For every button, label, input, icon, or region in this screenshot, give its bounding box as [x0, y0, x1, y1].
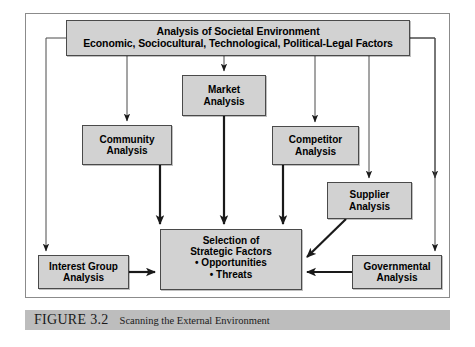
node-selection-bullet-threats: • Threats — [161, 269, 301, 280]
node-supplier-analysis[interactable]: Supplier Analysis — [327, 182, 412, 219]
node-selection-line2: Strategic Factors — [190, 246, 272, 257]
figure-title: Scanning the External Environment — [120, 315, 270, 326]
node-selection-of-strategic-factors[interactable]: Selection of Strategic Factors • Opportu… — [160, 229, 302, 290]
node-selection-line1: Selection of — [203, 235, 260, 246]
node-competitor-line1: Competitor — [289, 134, 342, 145]
node-market-line1: Market — [208, 84, 240, 95]
node-societal-line1: Analysis of Societal Environment — [156, 25, 319, 37]
node-interest-group-analysis[interactable]: Interest Group Analysis — [38, 255, 129, 289]
node-interest-group-line2: Analysis — [63, 272, 104, 283]
figure-number: FIGURE 3.2 — [34, 312, 109, 328]
node-supplier-line1: Supplier — [349, 189, 389, 200]
node-competitor-analysis[interactable]: Competitor Analysis — [272, 126, 359, 165]
node-governmental-line2: Analysis — [376, 272, 417, 283]
node-market-analysis[interactable]: Market Analysis — [182, 75, 266, 116]
node-market-line2: Analysis — [203, 96, 244, 107]
node-competitor-line2: Analysis — [295, 146, 336, 157]
node-societal-line2: Economic, Sociocultural, Technological, … — [83, 37, 393, 49]
node-community-line2: Analysis — [106, 145, 147, 156]
node-governmental-line1: Governmental — [363, 261, 430, 272]
figure-caption-bar: FIGURE 3.2 Scanning the External Environ… — [25, 310, 450, 330]
node-interest-group-line1: Interest Group — [49, 261, 118, 272]
node-governmental-analysis[interactable]: Governmental Analysis — [352, 255, 442, 289]
figure-page: Analysis of Societal Environment Economi… — [0, 0, 475, 347]
node-selection-bullets: • Opportunities • Threats — [161, 257, 301, 279]
node-community-analysis[interactable]: Community Analysis — [82, 125, 172, 165]
node-selection-bullet-opportunities: • Opportunities — [161, 257, 301, 268]
node-societal-environment[interactable]: Analysis of Societal Environment Economi… — [66, 20, 410, 56]
node-supplier-line2: Analysis — [349, 201, 390, 212]
node-community-line1: Community — [100, 134, 155, 145]
